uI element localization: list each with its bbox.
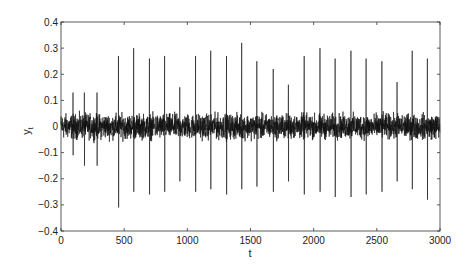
y-tick-label: −0.3 (38, 199, 58, 210)
svg-text:yt: yt (20, 126, 35, 135)
line-chart: 050010001500200025003000 −0.4−0.3−0.2−0.… (0, 0, 470, 266)
series-line (61, 43, 440, 208)
x-tick-label: 2500 (366, 235, 389, 246)
x-tick-label: 0 (58, 235, 64, 246)
y-axis-label: yt (20, 126, 35, 135)
x-tick-label: 500 (116, 235, 133, 246)
x-tick-label: 3000 (429, 235, 452, 246)
x-axis-label: t (248, 247, 251, 259)
y-tick-label: 0 (52, 121, 58, 132)
y-tick-label: −0.1 (38, 147, 58, 158)
y-tick-label: −0.4 (38, 226, 58, 237)
y-tick-label: 0.4 (44, 17, 58, 28)
y-tick-label: 0.2 (44, 69, 58, 80)
y-tick-label: 0.3 (44, 43, 58, 54)
y-tick-label: 0.1 (44, 95, 58, 106)
x-axis: 050010001500200025003000 (58, 22, 451, 246)
y-tick-label: −0.2 (38, 173, 58, 184)
x-tick-label: 1000 (176, 235, 199, 246)
x-tick-label: 2000 (303, 235, 326, 246)
x-tick-label: 1500 (239, 235, 262, 246)
